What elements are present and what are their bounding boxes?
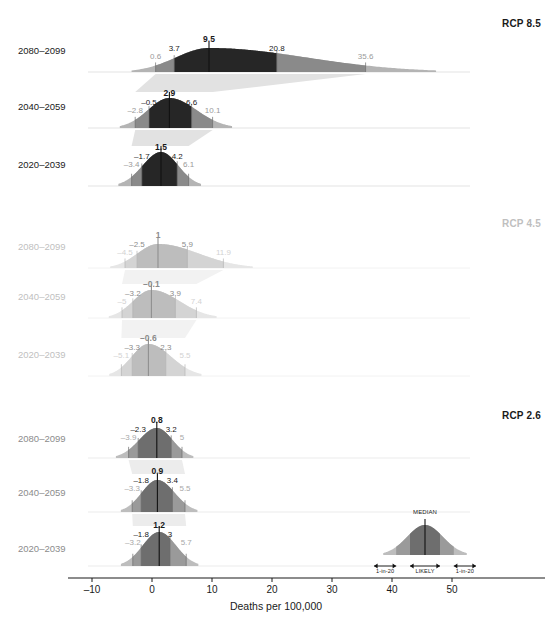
quantile-value-label: –3.2 [125, 289, 141, 298]
quantile-value-label: 35.6 [358, 52, 374, 61]
quantile-value-label: 0.6 [150, 52, 161, 61]
uncertainty-funnel [121, 320, 196, 338]
quantile-value-label: –1.7 [134, 152, 150, 161]
quantile-value-label: 7.4 [191, 297, 202, 306]
x-axis-tick-label: 10 [206, 584, 217, 595]
x-axis-title: Deaths per 100,000 [230, 600, 322, 612]
row-period-label: 2020–2039 [18, 159, 66, 170]
row-period-label: 2040–2059 [18, 291, 66, 302]
quantile-value-label: –3.3 [124, 484, 140, 493]
row-period-label: 2020–2039 [18, 349, 66, 360]
panel-title-rcp-2-6: RCP 2.6 [502, 410, 541, 421]
quantile-value-label: 10.1 [205, 106, 221, 115]
quantile-value-label: 4.2 [172, 152, 183, 161]
quantile-value-label: 5.5 [179, 351, 190, 360]
legend-high-tail-label: 1-in-20 [456, 568, 474, 574]
quantile-value-label: 20.8 [269, 44, 285, 53]
quantile-value-label: –0.1 [143, 279, 160, 289]
x-axis-tick-label: 20 [266, 584, 277, 595]
quantile-value-label: –2.8 [127, 106, 143, 115]
legend-low-tail-label: 1-in-20 [376, 568, 394, 574]
row-period-label: 2040–2059 [18, 101, 66, 112]
distribution-row [121, 474, 198, 512]
quantile-value-label: 5.7 [181, 538, 192, 547]
quantile-value-label: –1.8 [133, 530, 149, 539]
x-axis-tick-label: 50 [446, 584, 457, 595]
row-period-label: 2080–2099 [18, 241, 66, 252]
quantile-value-label: 3.2 [166, 425, 177, 434]
quantile-value-label: 2.9 [163, 88, 175, 98]
quantile-value-label: –0.5 [141, 98, 157, 107]
quantile-value-label: 5.5 [179, 484, 190, 493]
quantile-value-label: 9.5 [203, 34, 215, 44]
quantile-value-label: –3.4 [124, 160, 140, 169]
x-axis-tick-label: –10 [84, 584, 101, 595]
quantile-value-label: –2.3 [130, 425, 146, 434]
row-period-label: 2080–2099 [18, 433, 66, 444]
x-axis-tick-label: 30 [326, 584, 337, 595]
quantile-value-label: –3.2 [125, 538, 141, 547]
quantile-value-label: –1.8 [133, 476, 149, 485]
likely-region [174, 48, 277, 72]
quantile-value-label: 3.4 [167, 476, 178, 485]
quantile-value-label: 2.3 [160, 343, 171, 352]
panel-title-rcp-8-5: RCP 8.5 [502, 18, 541, 29]
row-period-label: 2020–2039 [18, 543, 66, 554]
quantile-value-label: –3.3 [124, 343, 140, 352]
quantile-value-label: 3.9 [170, 289, 181, 298]
quantile-value-label: 1.2 [153, 520, 165, 530]
panel-title-rcp-4-5: RCP 4.5 [502, 218, 541, 229]
legend-distribution [383, 519, 467, 555]
quantile-value-label: –0.6 [140, 333, 157, 343]
row-period-label: 2040–2059 [18, 487, 66, 498]
legend-likely-label: LIKELY [415, 568, 434, 574]
quantile-value-label: 3 [168, 530, 172, 539]
climate-mortality-distribution-chart: –1001020304050Deaths per 100,000RCP 8.52… [0, 0, 549, 622]
x-axis-tick-label: 40 [386, 584, 397, 595]
quantile-value-label: 1 [156, 230, 161, 240]
quantile-value-label: 6.6 [186, 98, 197, 107]
distribution-plot-canvas [0, 0, 549, 622]
quantile-value-label: –2.5 [129, 240, 145, 249]
quantile-value-label: –5.1 [114, 351, 130, 360]
row-period-label: 2080–2099 [18, 45, 66, 56]
quantile-value-label: 6.1 [183, 160, 194, 169]
quantile-value-label: 3.7 [169, 44, 180, 53]
quantile-value-label: –5 [118, 297, 127, 306]
quantile-value-label: 0.8 [151, 415, 163, 425]
quantile-value-label: 11.9 [216, 248, 231, 257]
quantile-value-label: 1.5 [155, 142, 167, 152]
quantile-value-label: 5.9 [182, 240, 193, 249]
x-axis-tick-label: 0 [149, 584, 155, 595]
quantile-value-label: 0.9 [151, 466, 163, 476]
uncertainty-funnel [122, 270, 223, 284]
quantile-value-label: –3.9 [121, 433, 137, 442]
legend-median-label: MEDIAN [413, 509, 437, 515]
uncertainty-funnel [132, 130, 213, 146]
quantile-value-label: 5 [180, 433, 184, 442]
quantile-value-label: –4.5 [117, 248, 133, 257]
